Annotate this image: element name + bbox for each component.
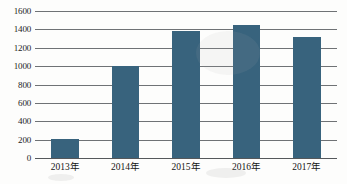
x-axis-tick-label: 2017年 [292, 161, 321, 173]
plot-area [35, 11, 337, 158]
bar-2013 [51, 139, 78, 158]
y-axis-tick-label: 1600 [14, 7, 31, 16]
y-axis-tick-label: 1200 [14, 43, 31, 52]
x-axis-tick-label: 2015年 [172, 161, 201, 173]
y-axis-tick-label: 0 [27, 154, 31, 163]
bar-2015 [172, 31, 199, 158]
x-axis-labels: 2013年 2014年 2015年 2016年 2017年 [35, 161, 337, 177]
bar-2017 [293, 37, 320, 158]
y-axis-tick-label: 1400 [14, 25, 31, 34]
y-axis-tick-label: 1000 [14, 62, 31, 71]
bar-series [35, 11, 337, 158]
x-axis-tick-label: 2013年 [51, 161, 80, 173]
x-axis-tick-label: 2014年 [111, 161, 140, 173]
y-axis-tick-label: 600 [18, 98, 31, 107]
x-axis-line [35, 158, 337, 159]
bar-chart: 1600 1400 1200 1000 800 600 400 200 0 [0, 0, 347, 184]
y-axis-tick-label: 400 [18, 117, 31, 126]
bar-2016 [233, 25, 260, 158]
y-axis-tick-label: 800 [18, 80, 31, 89]
y-axis-tick-label: 200 [18, 135, 31, 144]
y-axis-labels: 1600 1400 1200 1000 800 600 400 200 0 [0, 11, 31, 158]
x-axis-tick-label: 2016年 [232, 161, 261, 173]
bar-2014 [112, 66, 139, 158]
